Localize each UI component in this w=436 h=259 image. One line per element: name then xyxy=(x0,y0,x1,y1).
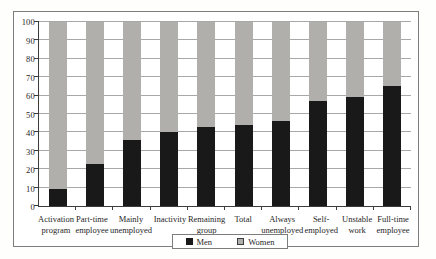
y-tick-label: 10 xyxy=(26,184,35,194)
bar-segment-men xyxy=(86,164,104,206)
x-axis-labels: ActivationprogramPart-timeemployeeMainly… xyxy=(38,214,411,235)
x-tick xyxy=(298,206,299,210)
y-tick-label: 20 xyxy=(26,165,35,175)
x-category-label: Mainlyunemployed xyxy=(110,214,152,235)
y-tick xyxy=(34,168,39,169)
bar-slot xyxy=(113,22,150,206)
stacked-bar xyxy=(197,22,215,206)
bar-slot xyxy=(188,22,225,206)
x-category-label: Activationprogram xyxy=(38,214,74,235)
x-category-label-line: Full-time xyxy=(375,214,411,225)
x-tick xyxy=(150,206,151,210)
x-category-label: Self-employed xyxy=(303,214,339,235)
legend-item-men: Men xyxy=(186,237,213,247)
x-category-label-line: employee xyxy=(74,225,110,236)
x-tick xyxy=(187,206,188,210)
x-tick xyxy=(410,206,411,210)
x-category-label-line: employee xyxy=(375,225,411,236)
x-tick xyxy=(336,206,337,210)
y-tick xyxy=(34,76,39,77)
bar-slots xyxy=(39,22,411,206)
bar-segment-women xyxy=(123,22,141,140)
bar-slot xyxy=(39,22,76,206)
bar-slot xyxy=(374,22,411,206)
plot-area xyxy=(38,22,411,207)
stacked-bar xyxy=(86,22,104,206)
y-tick xyxy=(34,187,39,188)
x-category-label: Part-timeemployee xyxy=(74,214,110,235)
y-tick-label: 30 xyxy=(26,147,35,157)
y-tick xyxy=(34,205,39,206)
x-category-label-line: Remaining xyxy=(188,214,225,225)
x-category-label: Remaininggroup xyxy=(188,214,225,235)
bar-segment-men xyxy=(160,132,178,206)
bar-segment-men xyxy=(383,86,401,206)
x-category-label: Alwaysunemployed xyxy=(261,214,303,235)
bar-segment-men xyxy=(309,101,327,206)
y-tick xyxy=(34,150,39,151)
bar-segment-women xyxy=(309,22,327,101)
legend: Men Women xyxy=(172,234,288,249)
chart-figure: 0102030405060708090100 Activationprogram… xyxy=(0,0,436,259)
bar-segment-women xyxy=(86,22,104,164)
y-axis-labels: 0102030405060708090100 xyxy=(14,22,35,207)
bar-segment-men xyxy=(235,125,253,206)
x-category-label-line: Unstable xyxy=(339,214,375,225)
stacked-bar xyxy=(123,22,141,206)
bar-segment-women xyxy=(272,22,290,121)
y-tick xyxy=(34,113,39,114)
x-category-label: Full-timeemployee xyxy=(375,214,411,235)
bar-slot xyxy=(225,22,262,206)
x-category-label-line: Mainly xyxy=(110,214,152,225)
bar-slot xyxy=(151,22,188,206)
x-category-label-line: Always xyxy=(261,214,303,225)
chart-frame: 0102030405060708090100 Activationprogram… xyxy=(13,11,419,247)
x-category-label-line: unemployed xyxy=(110,225,152,236)
y-tick-label: 0 xyxy=(31,202,35,212)
bar-slot xyxy=(337,22,374,206)
men-swatch-icon xyxy=(186,238,193,245)
y-tick-label: 90 xyxy=(26,36,35,46)
legend-men-label: Men xyxy=(197,237,213,247)
bar-segment-women xyxy=(49,22,67,189)
stacked-bar xyxy=(272,22,290,206)
legend-women-label: Women xyxy=(248,237,274,247)
y-tick xyxy=(34,21,39,22)
y-tick xyxy=(34,39,39,40)
y-tick-label: 100 xyxy=(22,17,35,27)
x-category-label: Unstablework xyxy=(339,214,375,235)
bar-segment-women xyxy=(235,22,253,125)
bar-segment-men xyxy=(49,189,67,206)
stacked-bar xyxy=(309,22,327,206)
women-swatch-icon xyxy=(237,238,244,245)
x-category-label: Inactivity xyxy=(152,214,188,235)
x-category-label-line: Part-time xyxy=(74,214,110,225)
x-tick xyxy=(112,206,113,210)
x-tick xyxy=(373,206,374,210)
y-tick-label: 60 xyxy=(26,91,35,101)
y-tick xyxy=(34,58,39,59)
bar-slot xyxy=(76,22,113,206)
stacked-bar xyxy=(346,22,364,206)
x-category-label-line: Activation xyxy=(38,214,74,225)
y-tick-label: 70 xyxy=(26,73,35,83)
x-category-label-line: work xyxy=(339,225,375,236)
bar-segment-men xyxy=(272,121,290,206)
bar-slot xyxy=(299,22,336,206)
x-category-label-line: program xyxy=(38,225,74,236)
x-category-label-line: Inactivity xyxy=(152,214,188,225)
bar-segment-women xyxy=(197,22,215,127)
x-category-label: Total xyxy=(225,214,261,235)
bar-segment-women xyxy=(383,22,401,86)
x-tick xyxy=(261,206,262,210)
bar-segment-women xyxy=(346,22,364,97)
bar-segment-men xyxy=(346,97,364,206)
y-tick-label: 50 xyxy=(26,110,35,120)
bar-segment-men xyxy=(123,140,141,206)
legend-item-women: Women xyxy=(237,237,274,247)
bar-slot xyxy=(262,22,299,206)
y-tick xyxy=(34,95,39,96)
y-tick-label: 80 xyxy=(26,54,35,64)
stacked-bar xyxy=(49,22,67,206)
x-category-label-line: Self- xyxy=(303,214,339,225)
